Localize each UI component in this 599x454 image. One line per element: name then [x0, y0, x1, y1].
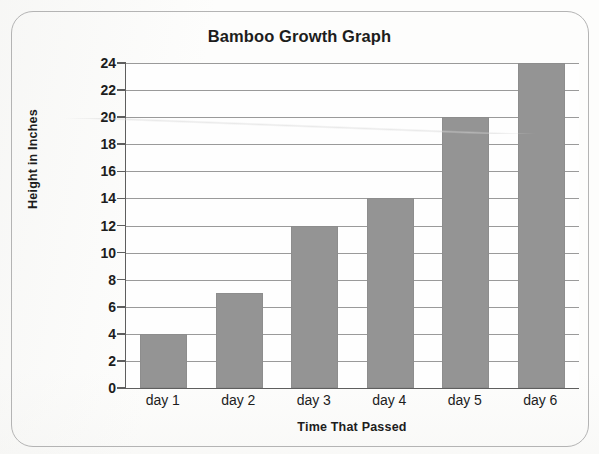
x-axis-tick-label: day 6 — [523, 392, 557, 408]
x-axis-tick-label: day 5 — [448, 392, 482, 408]
y-axis-tick-label: 22 — [100, 82, 116, 98]
x-axis-title: Time That Passed — [126, 420, 578, 434]
gridline — [126, 63, 579, 64]
y-axis-tick-label: 20 — [100, 109, 116, 125]
gridline — [126, 307, 579, 308]
y-axis-tick-mark — [117, 89, 126, 91]
chart-title: Bamboo Growth Graph — [0, 27, 599, 46]
y-axis-tick-label: 16 — [100, 163, 116, 179]
y-axis-tick-label: 18 — [100, 136, 116, 152]
gridline — [126, 253, 579, 254]
bar — [291, 226, 338, 389]
x-axis-tick-label: day 3 — [297, 392, 331, 408]
y-axis-tick-mark — [117, 171, 126, 173]
y-axis-tick-label: 12 — [100, 218, 116, 234]
gridline — [126, 361, 579, 362]
y-axis-tick-mark — [117, 143, 126, 145]
gridline — [126, 226, 579, 227]
gridline — [126, 117, 579, 118]
gridline — [126, 90, 579, 91]
y-axis-tick-label: 14 — [100, 190, 116, 206]
gridline — [126, 198, 579, 199]
bar — [442, 117, 489, 388]
x-axis-tick-labels: day 1day 2day 3day 4day 5day 6 — [125, 392, 578, 416]
gridline — [126, 280, 579, 281]
bar — [518, 63, 565, 388]
y-axis-tick-mark — [117, 333, 126, 335]
x-axis-tick-label: day 4 — [372, 392, 406, 408]
y-axis-tick-label: 8 — [108, 272, 116, 288]
y-axis-tick-mark — [117, 62, 126, 64]
y-axis-tick-mark — [117, 387, 126, 389]
y-axis-tick-label: 2 — [108, 353, 116, 369]
gridline — [126, 144, 579, 145]
y-axis-tick-mark — [117, 279, 126, 281]
gridline — [126, 171, 579, 172]
y-axis-tick-label: 0 — [108, 380, 116, 396]
y-axis-title: Height in Inches — [26, 99, 40, 219]
y-axis-tick-labels: 024681012141618202224 — [86, 63, 116, 388]
bar — [367, 198, 414, 388]
y-axis-tick-mark — [117, 252, 126, 254]
y-axis-tick-label: 6 — [108, 299, 116, 315]
x-axis-tick-label: day 2 — [221, 392, 255, 408]
y-axis-tick-label: 10 — [100, 245, 116, 261]
worksheet-page: Bamboo Growth Graph Height in Inches 024… — [0, 0, 599, 454]
x-axis-tick-label: day 1 — [146, 392, 180, 408]
y-axis-tick-label: 4 — [108, 326, 116, 342]
y-axis-tick-mark — [117, 198, 126, 200]
bar — [140, 334, 187, 388]
y-axis-tick-mark — [117, 225, 126, 227]
gridline — [126, 334, 579, 335]
y-axis-tick-mark — [117, 306, 126, 308]
bar — [216, 293, 263, 388]
y-axis-tick-mark — [117, 116, 126, 118]
y-axis-tick-label: 24 — [100, 55, 116, 71]
y-axis-tick-mark — [117, 360, 126, 362]
plot-area — [125, 63, 579, 389]
